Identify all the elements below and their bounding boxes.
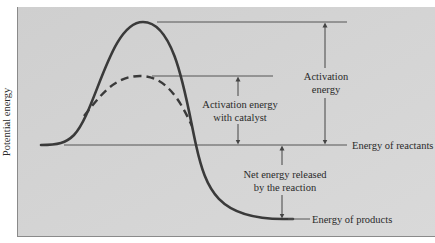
energy-diagram: Potential energy Activation energy Activ… [0, 0, 435, 243]
catalyst-activation-label-line2: with catalyst [213, 112, 266, 123]
net-energy-label-line2: by the reaction [254, 182, 317, 193]
activation-energy-label-line2: energy [312, 84, 341, 95]
net-energy-label-line1: Net energy released [243, 169, 327, 180]
activation-energy-label-line1: Activation [304, 71, 349, 82]
energy-of-products-label: Energy of products [312, 214, 392, 225]
y-axis-label: Potential energy [1, 87, 12, 156]
energy-of-reactants-label: Energy of reactants [352, 140, 433, 151]
catalyst-activation-label-line1: Activation energy [202, 99, 278, 110]
